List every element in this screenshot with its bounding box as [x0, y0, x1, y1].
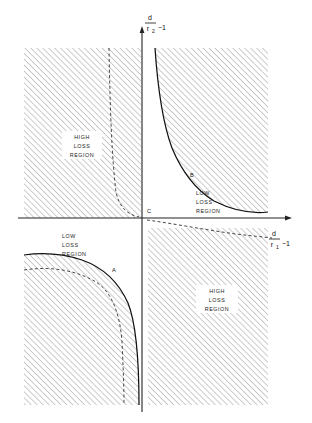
- region-upper-left-line3: REGION: [70, 152, 95, 158]
- region-label-lower-right: HIGH LOSS REGION: [196, 285, 238, 313]
- region-upper-left-line1: HIGH: [74, 134, 90, 140]
- diagram-canvas: C B A d r 2 −1 d r 1 −1 HIGH LOSS REGION: [0, 0, 312, 423]
- region-lower-right-line1: HIGH: [209, 288, 225, 294]
- region-lower-left-line1: LOW: [62, 233, 76, 239]
- region-lower-left-line2: LOSS: [62, 242, 79, 248]
- y-axis-denominator-subscript: 2: [152, 28, 155, 34]
- point-label-b: B: [190, 172, 194, 178]
- region-lower-right-line2: LOSS: [209, 297, 226, 303]
- y-axis-suffix: −1: [158, 24, 166, 31]
- origin-label-c: C: [147, 208, 151, 214]
- y-axis-numerator: d: [148, 14, 152, 21]
- x-axis-numerator: d: [272, 230, 276, 237]
- loss-region-diagram: C B A d r 2 −1 d r 1 −1 HIGH LOSS REGION: [0, 0, 312, 423]
- x-axis-denominator-subscript: 1: [276, 244, 279, 250]
- hatch-region-lower-right: [148, 228, 268, 405]
- region-upper-right-line2: LOSS: [196, 199, 213, 205]
- region-lower-right-line3: REGION: [205, 306, 230, 312]
- region-upper-right-line3: REGION: [196, 208, 221, 214]
- region-lower-left-line3: REGION: [62, 251, 87, 257]
- region-label-upper-left: HIGH LOSS REGION: [62, 131, 102, 159]
- region-upper-right-line1: LOW: [196, 190, 210, 196]
- point-label-a: A: [112, 267, 116, 273]
- region-upper-left-line2: LOSS: [74, 143, 91, 149]
- x-axis-suffix: −1: [282, 240, 290, 247]
